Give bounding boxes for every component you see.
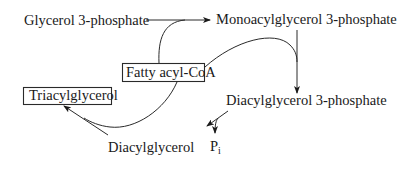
pi-subscript: i	[218, 145, 221, 156]
arc-fattyacylcoa-to-step2	[205, 38, 297, 67]
node-fatty-acyl-coa: Fatty acyl-CoA	[126, 64, 216, 80]
node-diacylglycerol: Diacylglycerol	[108, 139, 194, 155]
pi-main: P	[210, 138, 218, 154]
arrow-diacylglycerol-to-triacylglycerol	[64, 106, 108, 135]
node-triacylglycerol: Triacylglycerol	[29, 87, 118, 103]
node-monoacylglycerol-3-phosphate: Monoacylglycerol 3-phosphate	[216, 11, 397, 27]
node-glycerol-3-phosphate: Glycerol 3-phosphate	[24, 12, 149, 28]
pathway-diagram: Glycerol 3-phosphate Monoacylglycerol 3-…	[0, 0, 404, 169]
arc-fattyacylcoa-to-step1	[159, 20, 185, 63]
node-diacylglycerol-3-phosphate: Diacylglycerol 3-phosphate	[226, 92, 387, 108]
node-pi: Pi	[210, 138, 221, 156]
